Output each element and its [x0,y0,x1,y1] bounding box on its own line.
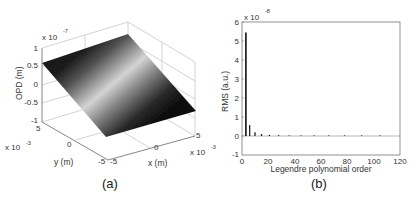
y-exponent: -3 [26,140,31,146]
svg-text:-1: -1 [232,150,240,159]
bar [269,135,270,136]
svg-text:5: 5 [196,131,201,140]
svg-text:-5: -5 [110,157,118,166]
bar [278,135,279,136]
svg-text:0: 0 [154,143,159,152]
bar [361,135,362,136]
x-axis-label-b: Legendre polynomial order [270,164,371,174]
svg-text:4: 4 [235,56,240,65]
svg-text:-0.5: -0.5 [24,98,38,107]
bar [261,134,262,136]
z-axis-label: OPD (m) [14,66,24,100]
z-multiplier: x 10 [42,33,58,42]
surface-plot-a: 1 0.5 0 -0.5 -1 x 10 -7 OPD (m) 5 0 -5 x… [5,22,216,191]
svg-text:3: 3 [235,75,240,84]
svg-text:0.5: 0.5 [27,61,39,70]
bar [314,135,315,136]
bar [249,125,250,136]
bar [254,132,255,136]
panel-label-b: (b) [311,176,327,191]
svg-text:0: 0 [235,132,240,141]
y-multiplier-b: x 10 [244,13,260,22]
svg-text:120: 120 [393,157,407,166]
x-multiplier: x 10 [190,148,206,157]
bar-chart-b: 6 5 4 3 2 1 0 -1 x 10 -8 RMS (a.u.) 0 20… [220,8,407,191]
plot-area-b [242,22,400,155]
x-axis-line [108,136,195,160]
y-axis-label-b: RMS (a.u.) [220,71,230,112]
z-ticks: 1 0.5 0 -0.5 -1 [24,44,38,125]
panel-label-a: (a) [102,176,118,191]
bar [344,135,345,136]
y-exponent-b: -8 [265,8,270,14]
bar [379,135,380,136]
svg-text:1: 1 [235,113,240,122]
svg-text:-5: -5 [98,157,106,166]
svg-text:2: 2 [235,94,240,103]
x-axis-label: x (m) [148,158,168,168]
z-exponent: -7 [63,28,68,34]
bar [328,135,329,136]
svg-text:0: 0 [240,157,245,166]
svg-text:0: 0 [34,80,39,89]
bar [245,33,247,137]
svg-text:0: 0 [67,140,72,149]
svg-text:1: 1 [34,44,39,53]
svg-text:6: 6 [235,18,240,27]
bar [289,135,290,136]
figure: 1 0.5 0 -0.5 -1 x 10 -7 OPD (m) 5 0 -5 x… [0,0,419,201]
opd-surface [42,34,196,137]
y-axis-label: y (m) [54,157,74,167]
svg-text:5: 5 [36,124,41,133]
x-exponent: -3 [211,144,216,150]
y-multiplier: x 10 [5,143,21,152]
bar [300,135,301,136]
svg-text:5: 5 [235,37,240,46]
